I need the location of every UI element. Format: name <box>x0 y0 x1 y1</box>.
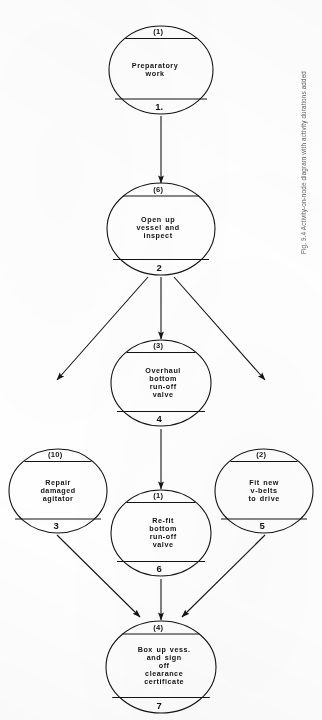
node-2[interactable]: 2 Open up vessel and inspect (6) <box>106 182 216 276</box>
node-1-id: 1. <box>138 102 180 113</box>
node-4-duration: (3) <box>137 342 179 351</box>
figure-canvas: 7 Box up vess. and sign off clearance ce… <box>0 0 322 720</box>
node-3-id: 3 <box>35 521 77 532</box>
node-4-description: Overhaul bottom run-off valve <box>116 367 210 399</box>
node-3[interactable]: 3 Repair damaged agitator (10) <box>8 448 108 534</box>
node-5[interactable]: 5 Fit new v-belts to drive (2) <box>214 448 314 534</box>
node-7-duration: (4) <box>136 624 180 633</box>
node-5-description: Fit new v-belts to drive <box>217 479 311 503</box>
node-6-id: 6 <box>138 564 180 575</box>
node-6-duration: (1) <box>137 492 179 501</box>
node-2-duration: (6) <box>136 186 180 195</box>
node-6[interactable]: 6 Re-fit bottom run-off valve (1) <box>110 489 212 577</box>
node-7-description: Box up vess. and sign off clearance cert… <box>114 646 214 686</box>
node-4-id: 4 <box>138 414 180 425</box>
node-2-id: 2 <box>137 263 181 274</box>
node-1-description: Preparatory work <box>107 62 203 78</box>
node-1-duration: (1) <box>137 28 179 37</box>
figure-caption: Fig. 9.4 Activity-on-node diagram with a… <box>300 71 307 254</box>
node-5-id: 5 <box>241 521 283 532</box>
node-4[interactable]: 4 Overhaul bottom run-off valve (3) <box>110 339 212 427</box>
node-1[interactable]: 1. Preparatory work (1) <box>108 25 214 115</box>
node-3-duration: (10) <box>34 451 76 460</box>
node-3-description: Repair damaged agitator <box>11 479 105 503</box>
node-6-description: Re-fit bottom run-off valve <box>116 517 210 549</box>
node-2-description: Open up vessel and inspect <box>108 216 208 240</box>
node-7-id: 7 <box>137 701 181 712</box>
node-7[interactable]: 7 Box up vess. and sign off clearance ce… <box>105 620 217 714</box>
node-5-duration: (2) <box>240 451 282 460</box>
